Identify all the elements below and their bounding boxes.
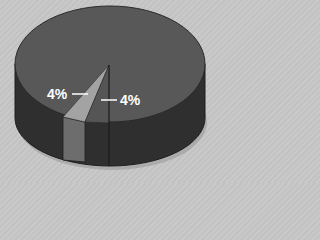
slice-a-side (63, 117, 85, 162)
slice-label-right: 4% (120, 92, 140, 108)
pie-top-face (15, 6, 205, 122)
slice-label-left: 4% (47, 86, 67, 102)
pie-chart: 4% 4% (0, 0, 219, 183)
pie-chart-svg (0, 0, 219, 183)
